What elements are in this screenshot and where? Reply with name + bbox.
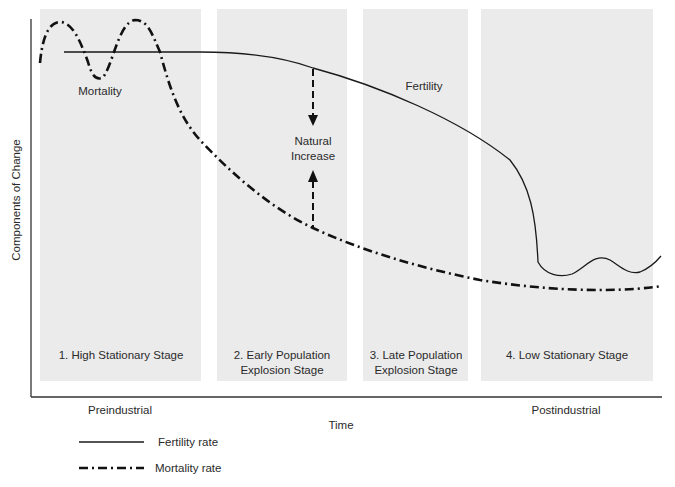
stage-3-label-line1: 3. Late Population (370, 349, 463, 361)
mortality-annotation: Mortality (78, 85, 122, 97)
demographic-transition-diagram: Mortality Fertility Natural Increase 1. … (0, 0, 675, 487)
natural-increase-label-line2: Increase (291, 150, 335, 162)
stage-2-panel (217, 9, 347, 381)
stage-3-panel (363, 9, 468, 381)
stage-1-label: 1. High Stationary Stage (59, 349, 184, 361)
y-axis-label: Components of Change (10, 139, 22, 260)
natural-increase-label-line1: Natural (294, 135, 331, 147)
x-start-label: Preindustrial (88, 404, 152, 416)
stage-2-label-line2: Explosion Stage (240, 364, 323, 376)
fertility-annotation: Fertility (405, 80, 442, 92)
x-end-label: Postindustrial (531, 404, 600, 416)
stage-2-label-line1: 2. Early Population (234, 349, 331, 361)
fertility-legend-label: Fertility rate (158, 436, 218, 448)
mortality-legend-label: Mortality rate (155, 462, 221, 474)
x-axis-label: Time (328, 419, 353, 431)
stage-1-panel (40, 9, 201, 381)
legend: Fertility rate Mortality rate (79, 436, 221, 474)
stage-3-label-line2: Explosion Stage (374, 364, 457, 376)
stage-4-label: 4. Low Stationary Stage (506, 349, 628, 361)
stage-4-panel (481, 9, 653, 381)
